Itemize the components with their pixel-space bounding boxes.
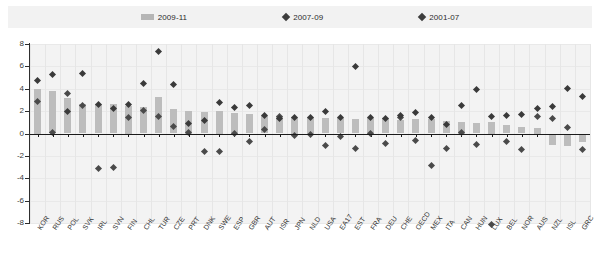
bar-SWE	[216, 111, 223, 133]
bar-GBR	[246, 114, 253, 133]
gridline-h	[30, 178, 590, 179]
y-tick	[25, 223, 30, 224]
y-tick-label: -6	[6, 197, 24, 205]
y-tick-label: -8	[6, 219, 24, 227]
bar-CHE	[397, 120, 404, 133]
y-tick	[25, 111, 30, 112]
y-tick	[25, 201, 30, 202]
bar-USA	[322, 118, 329, 134]
y-tick	[25, 89, 30, 90]
y-axis-labels: 86420-2-4-6-8	[0, 0, 24, 261]
chart-root: 2009-11 2007-09 2001-07 86420-2-4-6-8 KO…	[0, 0, 600, 261]
y-tick-label: 6	[6, 62, 24, 70]
gridline-h	[30, 44, 590, 45]
bar-HUN	[473, 123, 480, 133]
gridline-h	[30, 201, 590, 202]
y-tick-label: 8	[6, 40, 24, 48]
bar-GRC	[579, 134, 586, 143]
y-tick	[25, 156, 30, 157]
gridline-h	[30, 66, 590, 67]
y-tick-label: 2	[6, 107, 24, 115]
gridline-h	[30, 89, 590, 90]
chart-legend: 2009-11 2007-09 2001-07	[8, 6, 592, 28]
gridline-v	[590, 44, 591, 223]
bar-OECD	[412, 119, 419, 134]
y-tick-label: -4	[6, 174, 24, 182]
legend-item-1: 2007-09	[283, 13, 323, 22]
legend-item-0: 2009-11	[141, 13, 187, 22]
legend-label-2: 2001-07	[429, 13, 459, 22]
diamond-icon	[282, 13, 290, 21]
bar-EST	[352, 119, 359, 134]
y-tick	[25, 66, 30, 67]
y-tick	[25, 134, 30, 135]
zero-line	[29, 134, 590, 135]
bar-BEL	[503, 125, 510, 134]
gridline-h	[30, 156, 590, 157]
bar-swatch-icon	[141, 14, 154, 20]
bar-ISL	[564, 134, 571, 146]
diamond-icon	[418, 13, 426, 21]
y-tick-label: 4	[6, 85, 24, 93]
legend-label-1: 2007-09	[293, 13, 323, 22]
bar-NZL	[549, 134, 556, 145]
bar-KOR	[34, 89, 41, 134]
bar-IRL	[95, 104, 102, 133]
bar-SVK	[79, 104, 86, 133]
legend-item-2: 2001-07	[419, 13, 459, 22]
bar-POL	[64, 98, 71, 134]
bar-RUS	[49, 91, 56, 134]
y-tick	[25, 44, 30, 45]
bar-NOR	[518, 127, 525, 134]
bar-CZE	[170, 109, 177, 134]
y-tick-label: -2	[6, 152, 24, 160]
y-tick	[25, 178, 30, 179]
y-tick-label: 0	[6, 130, 24, 138]
bar-LUX	[488, 122, 495, 133]
legend-label-0: 2009-11	[158, 13, 187, 22]
